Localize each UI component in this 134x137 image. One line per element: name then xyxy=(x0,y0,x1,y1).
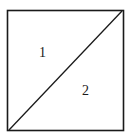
region-2-label: 2 xyxy=(82,83,89,98)
diagonal-line xyxy=(9,11,122,130)
square-diagram: 1 2 xyxy=(0,0,134,137)
region-1-label: 1 xyxy=(39,45,46,60)
